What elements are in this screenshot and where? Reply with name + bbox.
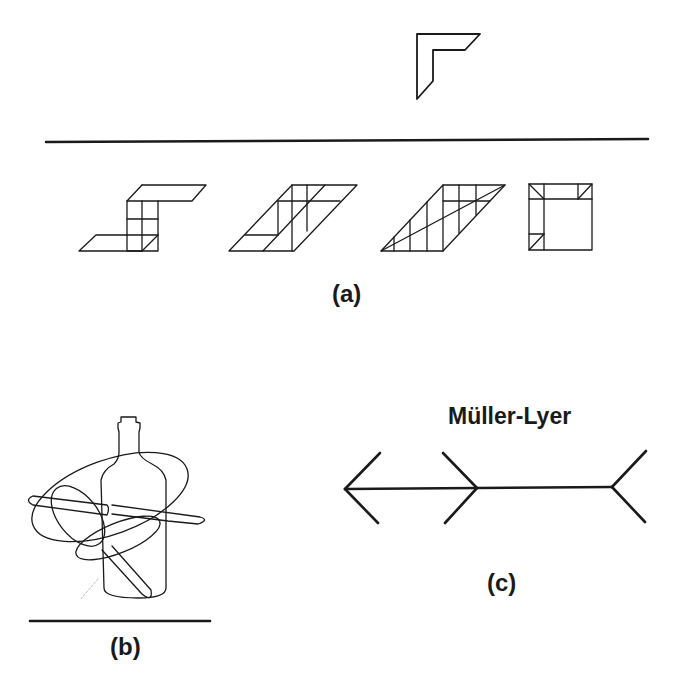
muller-lyer-illusion <box>345 451 646 523</box>
shaft-line <box>345 487 612 489</box>
figure-canvas <box>0 0 691 683</box>
muller-lyer-title: Müller-Lyer <box>448 403 571 430</box>
panel-b-label: (b) <box>110 633 141 661</box>
candidate-figure-4 <box>529 184 592 250</box>
panel-a-label: (a) <box>332 280 361 308</box>
separator-line <box>46 139 648 142</box>
candidate-figure-2 <box>229 185 357 251</box>
panel-c-label: (c) <box>487 569 516 597</box>
ellipse-loop <box>20 434 199 560</box>
spoon-handle <box>102 546 151 598</box>
l-corner-shape <box>417 34 480 99</box>
candidate-figure-1 <box>79 185 206 251</box>
candidate-figure-3 <box>381 185 505 251</box>
panel-a-target-shape <box>417 34 480 99</box>
panel-b-drawing <box>20 417 204 600</box>
